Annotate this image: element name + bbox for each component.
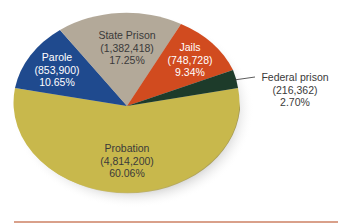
label-parole-name: Parole <box>32 51 82 64</box>
label-federal-prison-name: Federal prison <box>255 71 335 84</box>
label-parole: Parole (853,900) 10.65% <box>32 51 82 89</box>
label-probation-count: (4,814,200) <box>92 155 162 168</box>
label-state-prison: State Prison (1,382,418) 17.25% <box>92 29 162 67</box>
label-jails-count: (748,728) <box>165 54 215 67</box>
label-state-prison-pct: 17.25% <box>92 54 162 67</box>
label-probation: Probation (4,814,200) 60.06% <box>92 142 162 180</box>
label-state-prison-name: State Prison <box>92 29 162 42</box>
pie-chart <box>0 0 338 224</box>
label-federal-prison-pct: 2.70% <box>255 96 335 109</box>
label-federal-prison: Federal prison (216,362) 2.70% <box>255 71 335 109</box>
bottom-divider <box>14 221 338 223</box>
label-jails-pct: 9.34% <box>165 66 215 79</box>
label-probation-name: Probation <box>92 142 162 155</box>
label-federal-prison-count: (216,362) <box>255 84 335 97</box>
label-state-prison-count: (1,382,418) <box>92 42 162 55</box>
label-jails-name: Jails <box>165 41 215 54</box>
label-probation-pct: 60.06% <box>92 167 162 180</box>
label-parole-count: (853,900) <box>32 64 82 77</box>
label-jails: Jails (748,728) 9.34% <box>165 41 215 79</box>
label-parole-pct: 10.65% <box>32 76 82 89</box>
